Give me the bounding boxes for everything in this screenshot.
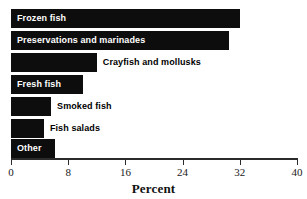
x-tick-label: 0	[8, 166, 14, 178]
x-tick	[297, 158, 298, 165]
x-tick	[11, 158, 12, 165]
bar-label-fish-salads: Fish salads	[50, 119, 100, 138]
bar-label-frozen-fish: Frozen fish	[17, 9, 66, 28]
plot-area: Frozen fish Preservations and marinades …	[0, 0, 307, 160]
bar-label-smoked-fish: Smoked fish	[57, 97, 112, 116]
bar-label-preservations-and-marinades: Preservations and marinades	[17, 31, 145, 50]
x-axis-title: Percent	[0, 181, 307, 197]
x-tick-label: 32	[234, 166, 245, 178]
x-tick-label: 16	[120, 166, 131, 178]
bar-label-other: Other	[17, 139, 42, 158]
x-tick	[240, 158, 241, 165]
bar-crayfish-and-mollusks	[11, 53, 97, 72]
x-tick-label: 24	[177, 166, 188, 178]
bar-smoked-fish	[11, 97, 51, 116]
bar-label-crayfish-and-mollusks: Crayfish and mollusks	[103, 53, 201, 72]
x-tick	[68, 158, 69, 165]
x-tick	[183, 158, 184, 165]
bar-fish-salads	[11, 119, 44, 138]
x-tick-label: 8	[65, 166, 71, 178]
x-tick-label: 40	[292, 166, 303, 178]
x-axis-line	[11, 158, 297, 160]
bar-label-fresh-fish: Fresh fish	[17, 75, 61, 94]
bar-chart: Frozen fish Preservations and marinades …	[0, 0, 307, 199]
x-tick	[125, 158, 126, 165]
